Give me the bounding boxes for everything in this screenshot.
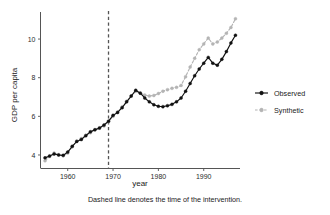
data-point — [170, 87, 173, 90]
data-point — [48, 154, 51, 157]
legend-marker-synthetic — [260, 108, 264, 112]
line-chart-canvas: 46810 1960197019801990 year GDP per capi… — [0, 0, 330, 215]
x-tick-label: 1970 — [105, 173, 121, 180]
data-point — [189, 66, 192, 69]
data-point — [207, 37, 210, 40]
chart-legend[interactable]: ObservedSynthetic — [255, 89, 305, 115]
data-point — [89, 130, 92, 133]
data-point — [166, 104, 169, 107]
data-point — [193, 74, 196, 77]
series-line — [45, 19, 235, 161]
legend-label-observed[interactable]: Observed — [274, 89, 305, 98]
data-point — [175, 100, 178, 103]
y-axis-title: GDP per capita — [10, 67, 19, 122]
data-point — [184, 90, 187, 93]
data-point — [71, 145, 74, 148]
data-point — [148, 100, 151, 103]
x-tick-label: 1990 — [196, 173, 212, 180]
y-tick-label: 10 — [28, 36, 36, 43]
data-point — [148, 95, 151, 98]
data-point — [220, 58, 223, 61]
data-point — [180, 96, 183, 99]
x-axis-title: year — [132, 179, 148, 188]
x-tick-label: 1960 — [60, 173, 76, 180]
data-point — [53, 153, 56, 156]
x-tick-label: 1980 — [151, 173, 167, 180]
data-point — [175, 86, 178, 89]
data-point — [161, 105, 164, 108]
legend-label-synthetic[interactable]: Synthetic — [274, 106, 304, 115]
data-point — [202, 42, 205, 45]
data-point — [107, 120, 110, 123]
data-point — [211, 62, 214, 65]
y-axis-tick-labels: 46810 — [28, 36, 36, 159]
data-point — [66, 151, 69, 154]
data-point — [134, 89, 137, 92]
data-point — [44, 159, 47, 162]
data-point — [234, 17, 237, 20]
y-tick-label: 4 — [32, 152, 36, 159]
data-point — [121, 106, 124, 109]
data-point — [44, 156, 47, 159]
data-point — [102, 124, 105, 127]
data-point — [98, 126, 101, 129]
data-point — [130, 95, 133, 98]
data-point — [198, 68, 201, 71]
data-point — [193, 57, 196, 60]
data-point — [152, 94, 155, 97]
data-point — [157, 92, 160, 95]
data-point — [216, 64, 219, 67]
data-point — [112, 114, 115, 117]
data-point — [229, 26, 232, 29]
data-point — [143, 96, 146, 99]
data-point — [152, 103, 155, 106]
data-point — [57, 153, 60, 156]
data-point — [207, 56, 210, 59]
data-point — [75, 140, 78, 143]
data-point — [202, 62, 205, 65]
data-point — [198, 48, 201, 51]
data-point — [84, 134, 87, 137]
data-point — [189, 82, 192, 85]
series-synthetic — [44, 17, 237, 162]
data-point — [220, 37, 223, 40]
data-point — [180, 84, 183, 87]
data-point — [139, 92, 142, 95]
series-line — [45, 35, 235, 158]
data-point — [225, 50, 228, 53]
data-point — [161, 90, 164, 93]
data-point — [184, 75, 187, 78]
data-point — [229, 41, 232, 44]
chart-caption: Dashed line denotes the time of the inte… — [88, 195, 242, 204]
data-point — [125, 100, 128, 103]
data-point — [225, 32, 228, 35]
data-point — [157, 105, 160, 108]
chart-figure: 46810 1960197019801990 year GDP per capi… — [0, 0, 330, 215]
data-point — [211, 42, 214, 45]
y-tick-label: 8 — [32, 74, 36, 81]
data-point — [234, 34, 237, 37]
data-point — [116, 111, 119, 114]
data-point — [216, 40, 219, 43]
data-point — [170, 103, 173, 106]
data-point — [80, 138, 83, 141]
data-point — [166, 88, 169, 91]
series-observed — [44, 34, 237, 160]
data-point — [93, 128, 96, 131]
legend-marker-observed — [260, 91, 264, 95]
data-point — [62, 154, 65, 157]
y-tick-label: 6 — [32, 113, 36, 120]
